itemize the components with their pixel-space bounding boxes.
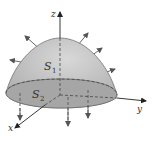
paraboloid-diagram: z y x S 1 S 2	[0, 0, 153, 147]
s1-subscript: 1	[52, 67, 56, 75]
x-axis-label: x	[8, 123, 13, 133]
s2-subscript: 2	[40, 95, 44, 103]
s2-letter: S	[32, 88, 40, 101]
surface-s2-base-disk	[6, 79, 117, 108]
z-axis-label: z	[50, 9, 56, 19]
s1-letter: S	[44, 60, 52, 73]
y-axis-label: y	[136, 104, 143, 114]
y-axis	[117, 98, 146, 101]
x-axis	[15, 105, 45, 128]
